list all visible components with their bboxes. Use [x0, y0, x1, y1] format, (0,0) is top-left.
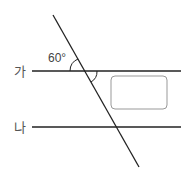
angle-arc-60 — [70, 59, 78, 71]
label-na: 나 — [14, 120, 26, 135]
angle-arc-unknown — [91, 71, 97, 82]
parallel-lines-diagram: 가 나 60° — [0, 0, 189, 173]
angle-label-60: 60° — [48, 51, 66, 65]
answer-box[interactable] — [111, 76, 167, 109]
label-ga: 가 — [14, 64, 26, 79]
